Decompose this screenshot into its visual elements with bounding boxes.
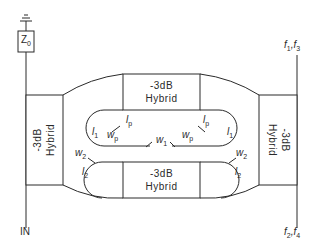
wp-right-label: wp — [182, 130, 193, 140]
bottom-hybrid-label: -3dBHybrid — [123, 167, 200, 193]
w1-label: w1 — [156, 135, 167, 145]
input-port-label: IN — [20, 227, 30, 237]
ground-icon — [20, 15, 32, 31]
lp-left-label: lp — [126, 115, 132, 125]
l2-right-label: l2 — [235, 167, 241, 177]
l1-right-label: l1 — [227, 127, 233, 137]
l1-left-label: l1 — [92, 127, 98, 137]
output-port-bottom-label: f2,f4 — [284, 227, 300, 237]
l2-left-label: l2 — [82, 167, 88, 177]
output-port-top-label: f1,f3 — [284, 40, 300, 50]
w2-left-label: w2 — [75, 148, 86, 158]
right-hybrid-label: -3dBHybrid — [264, 105, 292, 175]
lp-right-label: lp — [203, 115, 209, 125]
top-hybrid-label: -3dBHybrid — [123, 79, 200, 105]
left-hybrid-label: -3dBHybrid — [31, 105, 59, 175]
termination-label: Z0 — [21, 35, 31, 45]
wp-left-label: wp — [107, 130, 118, 140]
w2-right-label: w2 — [236, 148, 247, 158]
